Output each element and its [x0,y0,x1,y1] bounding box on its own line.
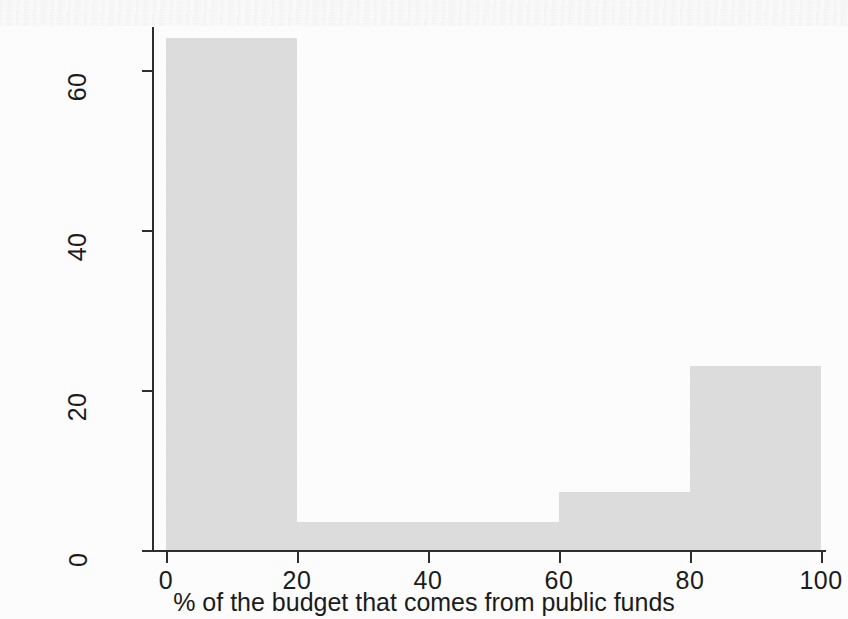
histogram-bar-20-60 [297,522,559,550]
histogram-bar-60-80 [559,492,690,550]
y-tick-label-20: 20 [64,393,93,422]
y-tick-60 [142,70,153,72]
histogram-bar-80-100 [690,366,821,550]
y-tick-40 [142,230,153,232]
y-axis-title-wrapper: Percentage of associations [8,0,48,40]
y-tick-0 [142,550,153,552]
x-axis-title: % of the budget that comes from public f… [0,588,848,617]
y-tick-label-0: 0 [64,553,93,567]
x-axis-line [152,550,826,552]
histogram-bar-0-20 [166,38,297,550]
chart-page: 0 20 40 60 0 20 40 60 80 100 % of the bu… [0,0,848,619]
histogram-plot: 0 20 40 60 0 20 40 60 80 100 % of the bu… [0,0,848,619]
y-axis-line [152,27,154,552]
x-tick-0 [166,552,168,563]
y-tick-label-60: 60 [64,73,93,102]
x-tick-40 [428,552,430,563]
y-axis-title: Percentage of associations [283,0,312,135]
y-tick-label-40: 40 [64,233,93,262]
x-tick-80 [690,552,692,563]
x-tick-60 [559,552,561,563]
x-tick-20 [297,552,299,563]
y-tick-20 [142,390,153,392]
x-tick-100 [821,552,823,563]
